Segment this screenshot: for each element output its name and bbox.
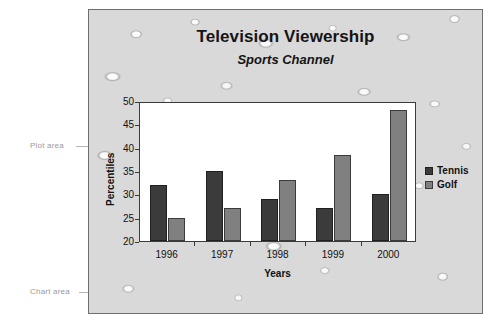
legend-swatch-icon: [425, 167, 433, 175]
legend-label: Golf: [437, 179, 457, 190]
bar-golf-1996[interactable]: [168, 218, 185, 241]
bar-golf-1997[interactable]: [224, 208, 241, 241]
legend-label: Tennis: [437, 165, 468, 176]
y-axis-tick-label: 50: [112, 96, 134, 107]
chart-legend[interactable]: TennisGolf: [425, 165, 468, 193]
chart-area-annotation-label: Chart area: [30, 287, 70, 296]
bar-tennis-1999[interactable]: [316, 208, 333, 241]
y-axis-tick-label: 30: [112, 189, 134, 200]
legend-item-golf[interactable]: Golf: [425, 179, 468, 190]
bar-golf-2000[interactable]: [390, 110, 407, 241]
x-axis-tick-mark: [361, 242, 362, 246]
x-axis-tick-label: 1997: [211, 249, 233, 260]
chart-title: Television Viewership: [89, 27, 482, 47]
plot-bars-container: [140, 103, 415, 241]
x-axis-tick-mark: [194, 242, 195, 246]
bar-tennis-2000[interactable]: [372, 194, 389, 241]
x-axis-tick-label: 2000: [377, 249, 399, 260]
bar-tennis-1996[interactable]: [150, 185, 167, 241]
chart-area[interactable]: Television Viewership Sports Channel Per…: [88, 9, 483, 314]
y-axis-tick-label: 35: [112, 166, 134, 177]
y-axis-tick-label: 45: [112, 119, 134, 130]
bar-golf-1998[interactable]: [279, 180, 296, 241]
y-axis-tick-label: 40: [112, 143, 134, 154]
x-axis-tick-mark: [250, 242, 251, 246]
chart-subtitle: Sports Channel: [89, 52, 482, 67]
legend-swatch-icon: [425, 181, 433, 189]
x-axis-tick-mark: [305, 242, 306, 246]
bar-tennis-1997[interactable]: [206, 171, 223, 241]
legend-item-tennis[interactable]: Tennis: [425, 165, 468, 176]
x-axis-tick-label: 1996: [156, 249, 178, 260]
x-axis-tick-label: 1999: [322, 249, 344, 260]
y-axis-tick-label: 25: [112, 213, 134, 224]
y-axis-tick-mark: [135, 242, 139, 243]
x-axis-title: Years: [139, 268, 416, 279]
bar-golf-1999[interactable]: [334, 155, 351, 241]
plot-area[interactable]: [139, 102, 416, 242]
plot-area-annotation-label: Plot area: [30, 141, 64, 150]
bar-tennis-1998[interactable]: [261, 199, 278, 241]
x-axis-tick-label: 1998: [266, 249, 288, 260]
y-axis-tick-label: 20: [112, 236, 134, 247]
